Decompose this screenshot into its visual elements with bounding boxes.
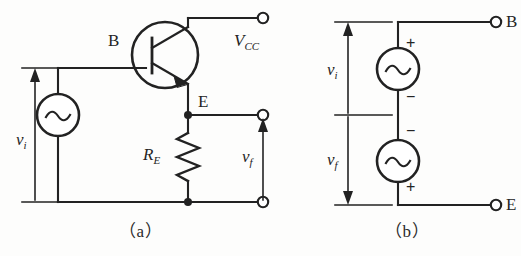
label-resistor-a: RE [143,145,160,166]
label-resistor-main: R [143,145,153,164]
caption-panel-a: （a） [119,217,162,242]
label-resistor-subscript: E [153,154,160,166]
panel-b-wires [335,17,501,210]
resistor-zigzag-body [177,133,199,181]
label-terminal-e: E [506,195,516,215]
label-vi-subscript-a: i [24,139,27,151]
panel-a-wires [22,13,268,207]
label-vf-main-b: v [327,150,335,169]
label-vi-subscript-b: i [335,69,338,81]
label-vcc-a: VCC [234,31,259,52]
vi-arrowhead-b [343,22,353,36]
label-vcc-main: V [234,31,244,50]
label-terminal-b: B [506,12,517,32]
terminal-b-node[interactable] [491,17,501,27]
transistor-collector-lead [152,27,188,48]
label-vcc-subscript: CC [244,40,259,52]
vf-arrowhead-b [343,191,353,205]
label-minus-bottom-b: − [406,122,415,140]
transistor-envelope-circle [132,22,198,88]
label-vf-subscript-a: f [250,156,253,168]
label-plus-bottom-b: + [406,178,415,196]
circuit-schematic-svg [0,0,521,256]
vi-arrowhead-a [30,68,40,82]
label-vf-a: vf [242,147,253,168]
terminal-e-node[interactable] [491,200,501,210]
label-minus-top-b: − [406,88,415,106]
label-emitter-a: E [198,92,208,112]
caption-panel-b: （b） [385,217,429,242]
label-base-a: B [108,31,119,51]
label-plus-top-b: + [406,34,415,52]
label-vi-a: vi [16,130,27,151]
label-vi-b: vi [327,60,338,81]
vcc-terminal[interactable] [258,13,268,23]
circuit-figure: B E VCC RE vi vf （a） B E + − − + vi vf （… [0,0,521,256]
label-vi-main-b: v [327,60,335,79]
label-vf-b: vf [327,150,338,171]
label-vi-main-a: v [16,130,24,149]
label-vf-subscript-b: f [335,159,338,171]
label-vf-main-a: v [242,147,250,166]
